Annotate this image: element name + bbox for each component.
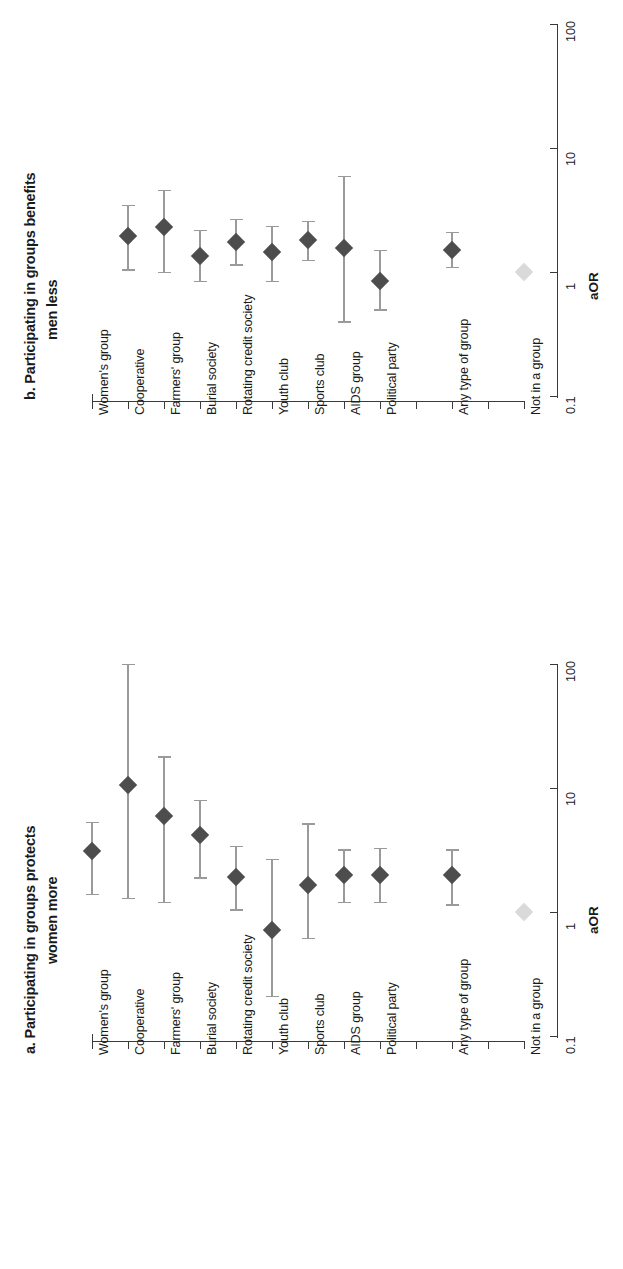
reference-point-marker bbox=[515, 263, 533, 281]
estimate-point-marker bbox=[443, 865, 461, 883]
category-label-youth-club: Youth club bbox=[277, 998, 291, 1055]
category-tick bbox=[200, 1042, 201, 1049]
panel-a-value-axis-title: aOR bbox=[586, 906, 601, 934]
ci-lower-cap bbox=[158, 272, 171, 273]
category-label-youth-club: Youth club bbox=[277, 358, 291, 415]
estimate-point-marker bbox=[443, 241, 461, 259]
category-tick bbox=[452, 1042, 453, 1049]
ci-lower-cap bbox=[446, 267, 459, 268]
panel-b-title-line2: men less bbox=[44, 280, 60, 340]
ci-upper-cap bbox=[194, 230, 207, 231]
category-tick bbox=[272, 402, 273, 409]
category-label-any-type-of-group: Any type of group bbox=[457, 319, 471, 415]
ci-upper-cap bbox=[194, 800, 207, 801]
value-axis-end-cap bbox=[550, 664, 557, 665]
category-tick bbox=[524, 1042, 525, 1049]
category-tick bbox=[488, 402, 489, 409]
category-tick bbox=[200, 402, 201, 409]
estimate-point-marker bbox=[335, 239, 353, 257]
estimate-point-marker bbox=[263, 920, 281, 938]
value-tick bbox=[550, 1036, 557, 1037]
ci-upper-cap bbox=[338, 849, 351, 850]
value-axis-line bbox=[557, 24, 558, 398]
category-tick bbox=[452, 402, 453, 409]
category-tick bbox=[524, 402, 525, 409]
ci-lower-cap bbox=[194, 281, 207, 282]
ci-upper-cap bbox=[374, 250, 387, 251]
estimate-point-marker bbox=[155, 807, 173, 825]
value-axis-tick-label: 1 bbox=[564, 923, 578, 930]
value-axis-tick-label: 1 bbox=[564, 283, 578, 290]
category-label-farmers-group: Farmers' group bbox=[169, 972, 183, 1055]
ci-upper-cap bbox=[230, 846, 243, 847]
category-label-rotating-credit-society: Rotating credit society bbox=[241, 295, 255, 415]
ci-lower-cap bbox=[230, 264, 243, 265]
estimate-point-marker bbox=[227, 868, 245, 886]
panel-b-participating-benefits-men-less: b. Participating in groups benefits men … bbox=[0, 0, 623, 634]
estimate-point-marker bbox=[155, 218, 173, 236]
category-tick bbox=[416, 402, 417, 409]
category-label-not-in-a-group: Not in a group bbox=[529, 978, 543, 1055]
category-tick bbox=[344, 1042, 345, 1049]
category-tick bbox=[380, 402, 381, 409]
category-tick bbox=[236, 1042, 237, 1049]
category-tick bbox=[380, 1042, 381, 1049]
category-tick bbox=[344, 402, 345, 409]
value-tick bbox=[550, 912, 557, 913]
estimate-point-marker bbox=[371, 865, 389, 883]
value-axis-tick-label: 0.1 bbox=[564, 396, 578, 414]
category-label-sports-club: Sports club bbox=[313, 994, 327, 1055]
confidence-interval-line bbox=[163, 756, 164, 902]
category-tick bbox=[308, 402, 309, 409]
ci-lower-cap bbox=[302, 938, 315, 939]
estimate-point-marker bbox=[263, 243, 281, 261]
ci-lower-cap bbox=[122, 269, 135, 270]
category-tick bbox=[128, 1042, 129, 1049]
ci-upper-cap bbox=[302, 823, 315, 824]
category-tick bbox=[164, 402, 165, 409]
category-label-cooperative: Cooperative bbox=[133, 989, 147, 1055]
ci-upper-cap bbox=[230, 219, 243, 220]
ci-lower-cap bbox=[194, 877, 207, 878]
category-tick bbox=[488, 1042, 489, 1049]
category-label-women-s-group: Women's group bbox=[97, 329, 111, 415]
ci-lower-cap bbox=[266, 281, 279, 282]
value-axis-tick-label: 0.1 bbox=[564, 1036, 578, 1054]
ci-lower-cap bbox=[374, 902, 387, 903]
value-axis-tick-label: 100 bbox=[564, 661, 578, 682]
ci-lower-cap bbox=[302, 260, 315, 261]
panel-a-participating-protects-women-more: a. Participating in groups protects wome… bbox=[0, 634, 623, 1269]
panel-a-title-line1: a. Participating in groups protects bbox=[22, 826, 38, 1054]
category-tick bbox=[308, 1042, 309, 1049]
value-axis-tick-label: 10 bbox=[564, 792, 578, 806]
estimate-point-marker bbox=[299, 231, 317, 249]
value-axis-tick-label: 10 bbox=[564, 152, 578, 166]
category-label-burial-society: Burial society bbox=[205, 982, 219, 1055]
value-tick bbox=[550, 148, 557, 149]
category-label-political-party: Political party bbox=[385, 342, 399, 415]
value-tick bbox=[550, 272, 557, 273]
estimate-point-marker bbox=[299, 876, 317, 894]
category-label-not-in-a-group: Not in a group bbox=[529, 338, 543, 415]
estimate-point-marker bbox=[191, 247, 209, 265]
ci-upper-cap bbox=[158, 190, 171, 191]
category-tick bbox=[128, 402, 129, 409]
panel-b-value-axis-title: aOR bbox=[586, 272, 601, 300]
ci-upper-cap bbox=[122, 205, 135, 206]
ci-upper-cap bbox=[266, 226, 279, 227]
category-axis-start-cap bbox=[92, 1034, 93, 1042]
ci-upper-cap bbox=[122, 664, 135, 665]
ci-upper-cap bbox=[302, 221, 315, 222]
estimate-point-marker bbox=[191, 826, 209, 844]
category-label-rotating-credit-society: Rotating credit society bbox=[241, 935, 255, 1055]
category-tick bbox=[92, 1042, 93, 1049]
panel-a-title-line2: women more bbox=[44, 877, 60, 964]
value-axis-line bbox=[557, 664, 558, 1038]
ci-upper-cap bbox=[86, 822, 99, 823]
ci-lower-cap bbox=[266, 996, 279, 997]
ci-upper-cap bbox=[374, 848, 387, 849]
value-axis-end-cap bbox=[550, 24, 557, 25]
value-tick bbox=[550, 788, 557, 789]
ci-lower-cap bbox=[338, 321, 351, 322]
estimate-point-marker bbox=[371, 272, 389, 290]
